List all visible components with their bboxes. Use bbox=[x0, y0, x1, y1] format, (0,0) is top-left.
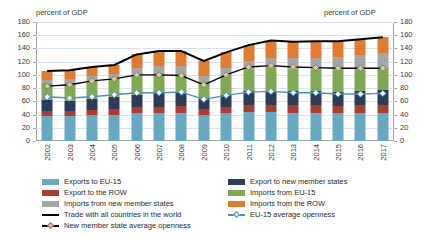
series-marker bbox=[335, 65, 341, 71]
x-tick-label: 2009 bbox=[200, 144, 209, 161]
y-tick-label-right: 60 bbox=[400, 97, 424, 105]
x-tick-label: 2005 bbox=[110, 144, 119, 161]
legend-item[interactable]: Trade with all countries in the world bbox=[42, 210, 181, 219]
x-tick-label: 2014 bbox=[312, 144, 321, 161]
series-marker bbox=[357, 91, 363, 97]
y-tick-label-left: 160 bbox=[6, 31, 30, 39]
series-marker bbox=[313, 65, 319, 71]
series-marker bbox=[201, 82, 207, 88]
x-axis: 2002200320042005200620072008200920102011… bbox=[36, 144, 394, 174]
series-marker bbox=[268, 63, 274, 69]
y-tick-mark-right bbox=[394, 75, 397, 76]
series-marker bbox=[89, 94, 95, 100]
x-tick-label: 2011 bbox=[245, 144, 254, 160]
y-tick-label-right: 0 bbox=[400, 137, 424, 145]
y-tick-mark-right bbox=[394, 22, 397, 23]
series-marker bbox=[313, 90, 319, 96]
series-line bbox=[47, 37, 383, 71]
y-tick-label-left: 180 bbox=[6, 18, 30, 26]
series-marker bbox=[44, 94, 50, 100]
y-tick-mark-left bbox=[33, 88, 36, 89]
series-marker bbox=[245, 89, 251, 95]
series-marker bbox=[223, 72, 229, 78]
y-tick-mark-left bbox=[33, 101, 36, 102]
y-tick-mark-left bbox=[33, 75, 36, 76]
series-marker bbox=[380, 90, 386, 96]
series-marker bbox=[156, 72, 162, 78]
series-marker bbox=[290, 90, 296, 96]
series-marker bbox=[178, 89, 184, 95]
legend-swatch-icon bbox=[42, 190, 59, 196]
right-axis-caption: percent of GDP bbox=[324, 8, 376, 17]
x-tick-label: 2008 bbox=[177, 144, 186, 161]
legend-line-icon bbox=[42, 211, 59, 218]
legend-item[interactable]: Export to new member states bbox=[228, 177, 348, 186]
legend-line-icon bbox=[42, 222, 59, 229]
legend-label: Export to the ROW bbox=[64, 188, 127, 197]
series-line bbox=[47, 91, 383, 99]
legend-label: Exports to EU-15 bbox=[64, 177, 121, 186]
legend-item[interactable]: New member state average openness bbox=[42, 221, 191, 230]
y-tick-label-right: 100 bbox=[400, 71, 424, 79]
series-marker bbox=[134, 72, 140, 78]
y-tick-mark-left bbox=[33, 128, 36, 129]
y-tick-mark-right bbox=[394, 128, 397, 129]
y-tick-mark-left bbox=[33, 141, 36, 142]
legend-swatch-icon bbox=[228, 190, 245, 196]
y-tick-label-right: 140 bbox=[400, 44, 424, 52]
legend-item[interactable]: Imports from EU-15 bbox=[228, 188, 315, 197]
x-tick-label: 2012 bbox=[267, 144, 276, 161]
legend-swatch-icon bbox=[228, 179, 245, 185]
x-tick-label: 2006 bbox=[133, 144, 142, 161]
legend-item[interactable]: EU-15 average openness bbox=[228, 210, 335, 219]
x-tick-label: 2015 bbox=[334, 144, 343, 161]
series-marker bbox=[178, 72, 184, 78]
legend-item[interactable]: Exports to EU-15 bbox=[42, 177, 121, 186]
series-marker bbox=[66, 95, 72, 101]
y-tick-mark-right bbox=[394, 62, 397, 63]
legend-item[interactable]: Export to the ROW bbox=[42, 188, 127, 197]
y-tick-mark-right bbox=[394, 141, 397, 142]
y-tick-label-left: 60 bbox=[6, 97, 30, 105]
series-marker bbox=[89, 78, 95, 84]
series-marker bbox=[357, 65, 363, 71]
legend-label: Imports from the ROW bbox=[250, 199, 325, 208]
series-marker bbox=[111, 76, 117, 82]
x-tick-label: 2004 bbox=[88, 144, 97, 161]
legend-line-icon bbox=[228, 211, 245, 218]
x-tick-label: 2016 bbox=[356, 144, 365, 161]
legend-item[interactable]: Imports from the ROW bbox=[228, 199, 325, 208]
series-marker bbox=[290, 64, 296, 70]
series-marker bbox=[223, 92, 229, 98]
line-series-group bbox=[36, 22, 394, 141]
y-tick-label-right: 160 bbox=[400, 31, 424, 39]
series-marker bbox=[335, 91, 341, 97]
x-tick-label: 2017 bbox=[379, 144, 388, 161]
series-marker bbox=[111, 92, 117, 98]
y-tick-label-right: 180 bbox=[400, 18, 424, 26]
y-tick-mark-right bbox=[394, 115, 397, 116]
x-tick-label: 2007 bbox=[155, 144, 164, 161]
y-tick-label-left: 140 bbox=[6, 44, 30, 52]
legend-swatch-icon bbox=[42, 201, 59, 207]
y-tick-mark-left bbox=[33, 35, 36, 36]
y-tick-mark-left bbox=[33, 22, 36, 23]
series-marker bbox=[156, 90, 162, 96]
series-line bbox=[47, 66, 383, 86]
series-marker bbox=[66, 82, 72, 88]
legend-item[interactable]: Imports from new member states bbox=[42, 199, 174, 208]
legend-label: Export to new member states bbox=[250, 177, 348, 186]
series-marker bbox=[380, 65, 386, 71]
y-tick-label-right: 40 bbox=[400, 111, 424, 119]
plot-area bbox=[36, 22, 394, 141]
y-tick-label-left: 40 bbox=[6, 111, 30, 119]
y-tick-mark-left bbox=[33, 115, 36, 116]
y-tick-label-left: 120 bbox=[6, 58, 30, 66]
x-tick-label: 2003 bbox=[66, 144, 75, 161]
y-tick-mark-right bbox=[394, 101, 397, 102]
chart-legend: Exports to EU-15Export to the ROWImports… bbox=[42, 177, 402, 235]
x-tick-label: 2002 bbox=[43, 144, 52, 161]
y-tick-label-right: 120 bbox=[400, 58, 424, 66]
legend-label: Imports from new member states bbox=[64, 199, 174, 208]
y-tick-label-right: 80 bbox=[400, 84, 424, 92]
